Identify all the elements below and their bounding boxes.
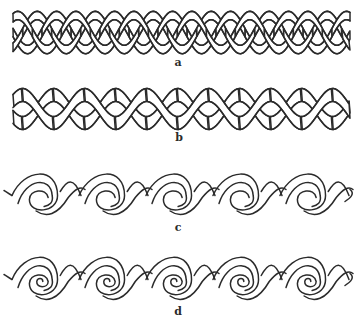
pattern-d-label: d xyxy=(174,305,182,318)
pattern-c-scroll xyxy=(4,174,353,214)
pattern-a-label: a xyxy=(174,56,181,69)
pattern-b-label: b xyxy=(175,131,183,144)
pattern-c-label: c xyxy=(175,221,182,234)
pattern-b-twist xyxy=(13,89,350,130)
pattern-d-spiral-scroll xyxy=(4,257,353,299)
pattern-a-braid xyxy=(13,11,350,53)
ornament-drawing xyxy=(0,0,358,331)
